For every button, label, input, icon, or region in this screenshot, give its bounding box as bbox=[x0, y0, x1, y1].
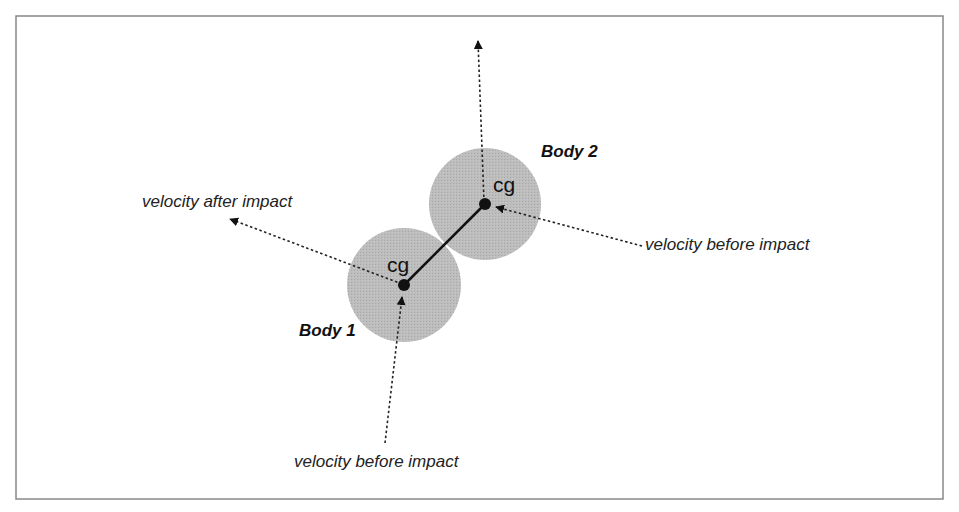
velocity-before-impact-label-body1: velocity before impact bbox=[294, 452, 460, 471]
cg-dot-body2 bbox=[479, 198, 491, 210]
cg-label-body2: cg bbox=[493, 173, 515, 196]
velocity-after-impact-label: velocity after impact bbox=[142, 192, 293, 211]
cg-dot-body1 bbox=[398, 279, 410, 291]
body-1-label: Body 1 bbox=[299, 321, 356, 340]
body-2-label: Body 2 bbox=[541, 142, 598, 161]
collision-diagram: cg cg Body 1 Body 2 velocity after impac… bbox=[0, 0, 959, 512]
velocity-before-impact-label-body2: velocity before impact bbox=[645, 235, 811, 254]
cg-label-body1: cg bbox=[387, 253, 409, 276]
